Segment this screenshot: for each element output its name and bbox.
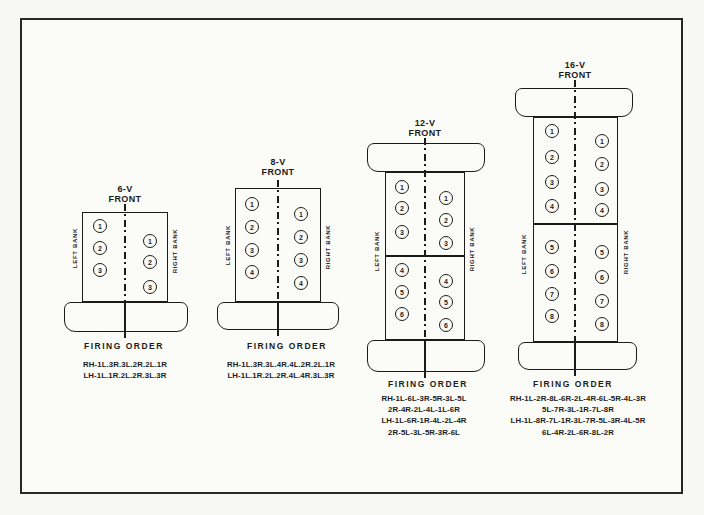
cylinder-circle: 4 <box>545 199 559 213</box>
firing-order-line: 6L-4R-2L-6R-8L-2R <box>483 427 673 438</box>
bank-divider <box>533 223 618 225</box>
firing-order-line: 5L-7R-3L-1R-7L-8R <box>483 404 673 415</box>
firing-order-line: LH-1L-8R-7L-1R-3L-7R-5L-3R-4L-5R <box>483 415 673 426</box>
engine-centerline-solid <box>574 342 576 376</box>
cylinder-circle: 7 <box>545 287 559 301</box>
engine-rear-cap <box>518 342 637 370</box>
diagram-16v: 16-VFRONT1234567812345678LEFT BANKRIGHT … <box>0 0 704 515</box>
firing-order-heading: FIRING ORDER <box>503 379 643 389</box>
cylinder-circle: 1 <box>545 124 559 138</box>
cylinder-circle: 6 <box>595 270 609 284</box>
cylinder-circle: 1 <box>595 134 609 148</box>
cylinder-circle: 4 <box>595 203 609 217</box>
firing-order-line: RH-1L-2R-8L-6R-2L-4R-6L-5R-4L-3R <box>483 393 673 404</box>
left-bank-label: LEFT BANK <box>521 219 527 289</box>
cylinder-circle: 5 <box>595 245 609 259</box>
cylinder-circle: 3 <box>595 182 609 196</box>
cylinder-circle: 7 <box>595 294 609 308</box>
cylinder-circle: 8 <box>545 309 559 323</box>
cylinder-circle: 3 <box>545 175 559 189</box>
engine-centerline <box>574 80 576 342</box>
engine-title-16v: 16-VFRONT <box>530 60 620 80</box>
cylinder-circle: 5 <box>545 240 559 254</box>
engine-size-label: 16-V <box>530 60 620 70</box>
right-bank-label: RIGHT BANK <box>623 217 629 287</box>
firing-order-text: RH-1L-2R-8L-6R-2L-4R-6L-5R-4L-3R5L-7R-3L… <box>483 393 673 438</box>
cylinder-circle: 2 <box>595 157 609 171</box>
front-label: FRONT <box>530 70 620 80</box>
cylinder-circle: 6 <box>545 264 559 278</box>
cylinder-circle: 8 <box>595 317 609 331</box>
cylinder-circle: 2 <box>545 150 559 164</box>
figure-canvas: 6-VFRONT123123LEFT BANKRIGHT BANKFIRING … <box>0 0 704 515</box>
